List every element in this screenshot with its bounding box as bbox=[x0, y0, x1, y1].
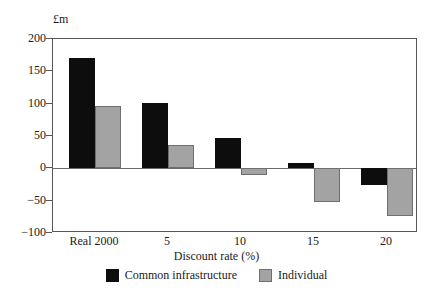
bar-common-infrastructure bbox=[69, 58, 95, 168]
y-axis-unit-label: £m bbox=[53, 12, 68, 26]
bar-individual bbox=[95, 106, 121, 168]
legend-label: Individual bbox=[278, 268, 327, 282]
x-axis-tick-labels: Real 20005101520 bbox=[52, 234, 417, 250]
bar-individual bbox=[168, 145, 194, 168]
y-axis-tick-mark bbox=[46, 232, 52, 233]
chart-figure: £m 200150100500−50−100 Real 20005101520 … bbox=[0, 0, 433, 302]
legend-label: Common infrastructure bbox=[125, 268, 237, 282]
y-axis-tick-label: −50 bbox=[27, 194, 46, 206]
x-axis-tick-label: Real 2000 bbox=[70, 234, 119, 248]
bar-common-infrastructure bbox=[361, 168, 387, 185]
legend-swatch-individual bbox=[259, 269, 272, 282]
y-axis-tick-label: −100 bbox=[21, 226, 46, 238]
bar-individual bbox=[314, 168, 340, 202]
bar-individual bbox=[241, 168, 267, 175]
bar-individual bbox=[387, 168, 413, 216]
plot-inner bbox=[53, 39, 416, 231]
legend-swatch-common-infrastructure bbox=[106, 269, 119, 282]
chart-legend: Common infrastructureIndividual bbox=[0, 268, 433, 282]
y-axis-tick-label: 150 bbox=[28, 64, 46, 76]
legend-item: Individual bbox=[259, 268, 327, 282]
plot-area bbox=[52, 38, 417, 232]
x-axis-tick-label: 15 bbox=[307, 234, 319, 248]
bar-common-infrastructure bbox=[288, 163, 314, 168]
bar-common-infrastructure bbox=[215, 138, 241, 168]
x-axis-tick-label: 10 bbox=[234, 234, 246, 248]
y-axis-tick-label: 200 bbox=[28, 32, 46, 44]
y-axis-tick-label: 50 bbox=[34, 129, 46, 141]
y-axis-tick-labels: 200150100500−50−100 bbox=[0, 38, 46, 232]
bar-common-infrastructure bbox=[142, 103, 168, 168]
x-axis-tick-label: 5 bbox=[164, 234, 170, 248]
legend-item: Common infrastructure bbox=[106, 268, 237, 282]
y-axis-tick-label: 100 bbox=[28, 97, 46, 109]
x-axis-title: Discount rate (%) bbox=[0, 249, 433, 263]
x-axis-tick-label: 20 bbox=[380, 234, 392, 248]
